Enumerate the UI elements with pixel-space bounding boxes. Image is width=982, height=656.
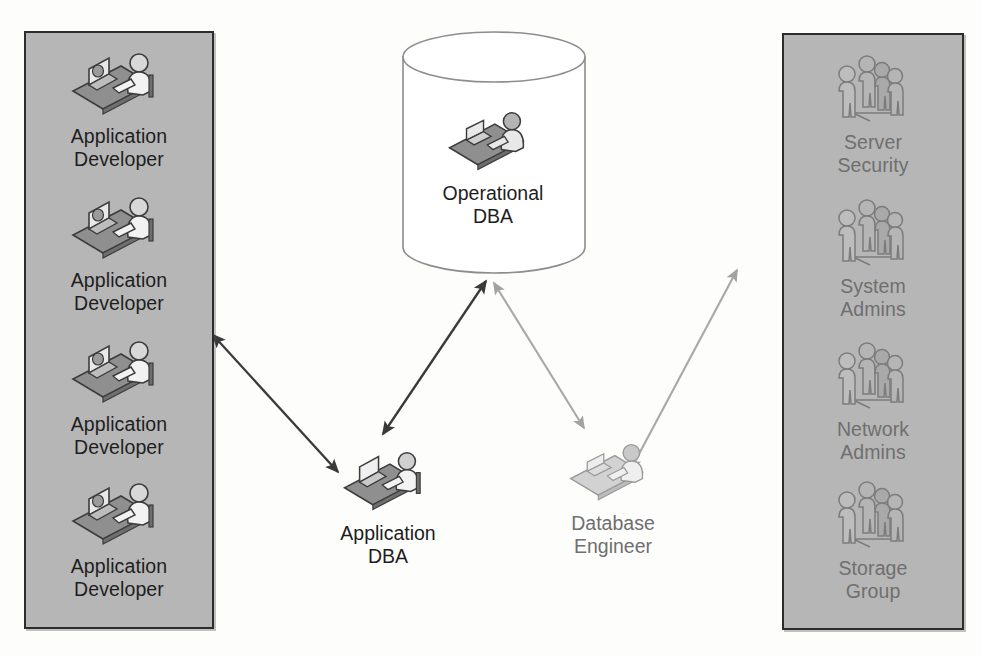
list-item: Application Developer (26, 193, 212, 315)
list-item-label: Network Admins (784, 418, 962, 464)
people-group-icon (825, 51, 921, 129)
list-item-label: System Admins (784, 275, 962, 321)
node-operational-dba: Operational DBA (402, 108, 584, 228)
list-item: Application Developer (26, 479, 212, 601)
node-label: Operational DBA (402, 182, 584, 228)
people-group-icon (825, 477, 921, 555)
list-item-label: Application Developer (26, 413, 212, 459)
person-at-desk-icon (441, 108, 545, 178)
node-label: Application DBA (288, 522, 488, 568)
list-item-label: Server Security (784, 131, 962, 177)
people-group-icon (825, 195, 921, 273)
people-group-icon (825, 338, 921, 416)
person-at-desk-icon (563, 440, 663, 508)
node-label: Database Engineer (515, 512, 711, 558)
list-item: Storage Group (784, 477, 962, 603)
list-item: System Admins (784, 195, 962, 321)
node-application-dba: Application DBA (288, 448, 488, 568)
person-at-desk-icon (336, 448, 440, 518)
list-item-label: Storage Group (784, 557, 962, 603)
list-item-label: Application Developer (26, 555, 212, 601)
list-item: Application Developer (26, 49, 212, 171)
list-item-label: Application Developer (26, 269, 212, 315)
connector-operational-dba-database-engineer (494, 283, 584, 428)
person-at-desk-icon (65, 49, 173, 123)
diagram-canvas: Application Developer Application Develo… (0, 0, 982, 656)
list-item: Application Developer (26, 337, 212, 459)
person-at-desk-icon (65, 193, 173, 267)
list-item: Server Security (784, 51, 962, 177)
node-database-engineer: Database Engineer (515, 440, 711, 558)
person-at-desk-icon (65, 479, 173, 553)
list-item-label: Application Developer (26, 125, 212, 171)
person-at-desk-icon (65, 337, 173, 411)
application-developers-panel: Application Developer Application Develo… (24, 31, 214, 629)
connector-application-dba-operational-dba (383, 281, 486, 434)
list-item: Network Admins (784, 338, 962, 464)
infrastructure-teams-panel: Server Security (782, 33, 964, 630)
